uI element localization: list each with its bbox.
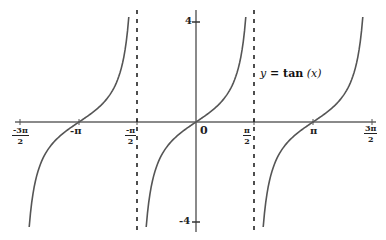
x-tick-label-neg-3pi-2: -3π 2 (12, 126, 29, 145)
function-label: y = tan (x) (260, 67, 322, 80)
x-tick-label-3pi-2: 3π 2 (364, 124, 377, 143)
x-tick-label-neg-pi: -π (70, 126, 81, 136)
x-tick-label-neg-pi-2: -π 2 (125, 126, 136, 145)
y-tick-label-4: 4 (185, 16, 192, 26)
y-tick-label-neg-4: -4 (179, 216, 190, 226)
x-tick-label-zero: 0 (200, 125, 208, 136)
x-tick-label-pi: π (310, 126, 317, 136)
x-tick-label-pi-2: π 2 (243, 126, 251, 145)
tan-plot (0, 0, 386, 240)
